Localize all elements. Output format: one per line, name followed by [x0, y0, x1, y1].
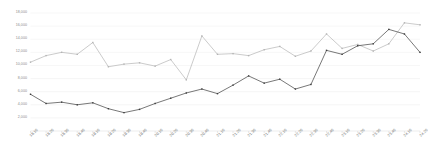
data-point-marker — [357, 45, 358, 46]
data-point-marker — [279, 46, 280, 47]
y-tick-label: 16,000 — [2, 24, 27, 28]
series-lines — [31, 23, 421, 113]
data-point-marker — [61, 101, 62, 102]
y-tick-label: 12,000 — [2, 51, 27, 55]
data-point-marker — [108, 108, 109, 109]
data-point-marker — [279, 79, 280, 80]
data-point-marker — [30, 94, 31, 95]
data-point-marker — [373, 50, 374, 51]
data-point-marker — [373, 43, 374, 44]
data-point-marker — [232, 84, 233, 85]
data-point-marker — [92, 102, 93, 103]
data-point-marker — [310, 84, 311, 85]
data-point-marker — [326, 33, 327, 34]
data-point-marker — [45, 55, 46, 56]
data-point-marker — [217, 93, 218, 94]
data-point-marker — [341, 54, 342, 55]
data-point-marker — [30, 61, 31, 62]
series-line-series-dark — [31, 29, 421, 112]
data-point-marker — [419, 52, 420, 53]
data-point-marker — [201, 88, 202, 89]
data-point-marker — [77, 104, 78, 105]
data-point-marker — [310, 50, 311, 51]
data-point-marker — [248, 55, 249, 56]
data-point-marker — [326, 50, 327, 51]
data-point-marker — [139, 109, 140, 110]
series-markers — [30, 22, 421, 113]
y-tick-label: 2,000 — [2, 116, 27, 120]
data-point-marker — [123, 112, 124, 113]
data-point-marker — [404, 33, 405, 34]
data-point-marker — [341, 48, 342, 49]
data-point-marker — [404, 22, 405, 23]
data-point-marker — [61, 52, 62, 53]
data-point-marker — [154, 103, 155, 104]
y-tick-label: 4,000 — [2, 103, 27, 107]
data-point-marker — [170, 98, 171, 99]
data-point-marker — [419, 24, 420, 25]
data-point-marker — [295, 56, 296, 57]
y-tick-label: 14,000 — [2, 37, 27, 41]
data-point-marker — [154, 65, 155, 66]
y-tick-label: 6,000 — [2, 90, 27, 94]
data-point-marker — [264, 49, 265, 50]
series-line-series-light — [31, 23, 421, 80]
data-point-marker — [139, 62, 140, 63]
data-point-marker — [186, 92, 187, 93]
data-point-marker — [45, 103, 46, 104]
y-tick-label: 18,000 — [2, 11, 27, 15]
data-point-marker — [248, 75, 249, 76]
data-point-marker — [388, 43, 389, 44]
data-point-marker — [201, 35, 202, 36]
data-point-marker — [170, 59, 171, 60]
y-tick-label: 10,000 — [2, 64, 27, 68]
data-point-marker — [108, 66, 109, 67]
data-point-marker — [217, 54, 218, 55]
data-point-marker — [295, 88, 296, 89]
gridlines — [31, 13, 421, 118]
data-point-marker — [123, 63, 124, 64]
data-point-marker — [77, 54, 78, 55]
data-point-marker — [92, 42, 93, 43]
data-point-marker — [264, 82, 265, 83]
data-point-marker — [388, 29, 389, 30]
data-point-marker — [232, 53, 233, 54]
y-tick-label: 8,000 — [2, 77, 27, 81]
data-point-marker — [186, 79, 187, 80]
data-point-marker — [357, 44, 358, 45]
